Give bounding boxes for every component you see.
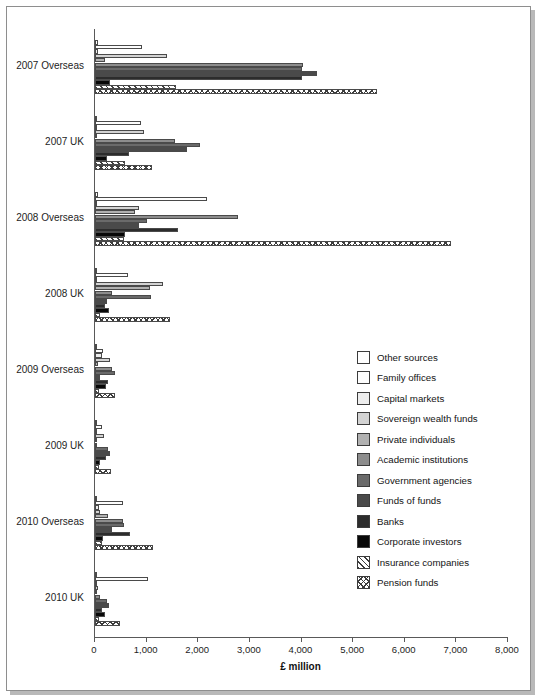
- legend-swatch-icon: [357, 351, 370, 364]
- category-axis: 2007 Overseas2007 UK2008 Overseas2008 UK…: [7, 29, 92, 637]
- legend-item: Pension funds: [357, 573, 522, 594]
- legend-swatch-icon: [357, 494, 370, 507]
- category-label: 2008 Overseas: [16, 212, 84, 223]
- bar: [95, 273, 128, 277]
- legend-label: Government agencies: [377, 475, 472, 486]
- x-tick: [146, 637, 147, 642]
- legend-swatch-icon: [357, 392, 370, 405]
- bar: [95, 317, 170, 321]
- x-tick-label: 8,000: [477, 644, 537, 655]
- legend-swatch-icon: [357, 515, 370, 528]
- legend-swatch-icon: [357, 412, 370, 425]
- legend-label: Academic institutions: [377, 454, 468, 465]
- legend-item: Sovereign wealth funds: [357, 409, 522, 430]
- category-label: 2007 Overseas: [16, 60, 84, 71]
- legend-label: Family offices: [377, 372, 436, 383]
- bar: [95, 393, 115, 397]
- legend-item: Family offices: [357, 368, 522, 389]
- legend-item: Capital markets: [357, 388, 522, 409]
- legend-label: Private individuals: [377, 434, 455, 445]
- legend-label: Banks: [377, 516, 404, 527]
- x-tick: [249, 637, 250, 642]
- chart-legend: Other sourcesFamily officesCapital marke…: [357, 347, 522, 593]
- x-tick: [507, 637, 508, 642]
- legend-label: Corporate investors: [377, 536, 462, 547]
- x-tick: [455, 637, 456, 642]
- chart-page: 2007 Overseas2007 UK2008 Overseas2008 UK…: [0, 0, 539, 699]
- category-label: 2010 UK: [45, 592, 84, 603]
- bar: [95, 241, 451, 245]
- bar: [95, 197, 207, 201]
- legend-swatch-icon: [357, 576, 370, 589]
- bar: [95, 76, 302, 80]
- legend-item: Insurance companies: [357, 552, 522, 573]
- legend-item: Government agencies: [357, 470, 522, 491]
- legend-label: Sovereign wealth funds: [377, 413, 478, 424]
- category-label: 2010 Overseas: [16, 516, 84, 527]
- bar: [95, 45, 142, 49]
- bar: [95, 577, 148, 581]
- legend-swatch-icon: [357, 474, 370, 487]
- legend-item: Academic institutions: [357, 450, 522, 471]
- legend-label: Pension funds: [377, 577, 438, 588]
- legend-swatch-icon: [357, 556, 370, 569]
- bar: [95, 130, 144, 134]
- category-label: 2009 Overseas: [16, 364, 84, 375]
- legend-item: Private individuals: [357, 429, 522, 450]
- legend-item: Other sources: [357, 347, 522, 368]
- legend-swatch-icon: [357, 433, 370, 446]
- legend-item: Funds of funds: [357, 491, 522, 512]
- legend-swatch-icon: [357, 453, 370, 466]
- bar: [95, 501, 123, 505]
- bar: [95, 469, 111, 473]
- category-label: 2009 UK: [45, 440, 84, 451]
- legend-label: Other sources: [377, 352, 438, 363]
- bar: [95, 545, 153, 549]
- legend-item: Banks: [357, 511, 522, 532]
- category-label: 2007 UK: [45, 136, 84, 147]
- bar: [95, 621, 120, 625]
- category-label: 2008 UK: [45, 288, 84, 299]
- x-tick: [301, 637, 302, 642]
- legend-label: Funds of funds: [377, 495, 441, 506]
- legend-label: Insurance companies: [377, 557, 469, 568]
- legend-swatch-icon: [357, 535, 370, 548]
- x-tick: [197, 637, 198, 642]
- bar: [95, 165, 152, 169]
- x-axis-title: £ million: [94, 661, 507, 672]
- x-tick: [352, 637, 353, 642]
- bar: [95, 54, 167, 58]
- x-tick: [404, 637, 405, 642]
- bar: [95, 121, 141, 125]
- legend-item: Corporate investors: [357, 532, 522, 553]
- legend-label: Capital markets: [377, 393, 444, 404]
- legend-swatch-icon: [357, 371, 370, 384]
- x-tick: [94, 637, 95, 642]
- bar: [95, 89, 377, 93]
- chart-frame: 2007 Overseas2007 UK2008 Overseas2008 UK…: [6, 6, 531, 691]
